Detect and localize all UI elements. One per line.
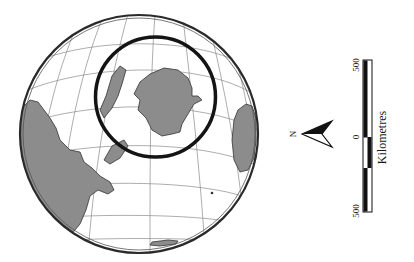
scale-label-bottom: 500 <box>351 201 361 221</box>
north-arrow-icon <box>302 121 332 147</box>
scale-bar <box>363 60 372 212</box>
north-label: N <box>288 129 298 139</box>
scale-label-top: 500 <box>351 55 361 75</box>
globe <box>20 14 258 254</box>
scale-unit-label: Kilometres <box>375 102 390 174</box>
scale-label-zero: 0 <box>351 127 361 147</box>
